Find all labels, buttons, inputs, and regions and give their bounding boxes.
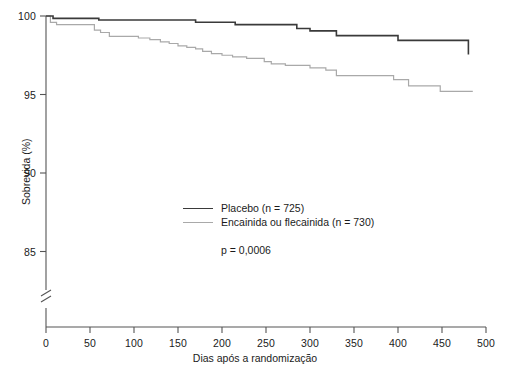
x-tick-label-200: 200	[213, 337, 231, 349]
x-tick-label-0: 0	[43, 337, 49, 349]
x-tick-label-150: 150	[169, 337, 187, 349]
y-tick-label-95: 95	[8, 89, 36, 101]
x-tick-label-450: 450	[433, 337, 451, 349]
x-axis-title: Dias após a randomização	[0, 352, 510, 364]
p-value-annotation: p = 0,0006	[221, 244, 271, 256]
y-axis-ticks	[40, 16, 46, 252]
y-tick-label-100: 100	[8, 10, 36, 22]
y-axis-title: Sobrevida (%)	[20, 138, 32, 205]
legend-item-placebo: Placebo (n = 725)	[183, 201, 374, 215]
legend: Placebo (n = 725) Encainida ou flecainid…	[183, 201, 374, 229]
x-tick-label-400: 400	[389, 337, 407, 349]
x-tick-label-500: 500	[477, 337, 495, 349]
x-tick-label-50: 50	[84, 337, 96, 349]
series-group	[46, 16, 473, 91]
x-tick-label-100: 100	[125, 337, 143, 349]
legend-label-placebo: Placebo (n = 725)	[221, 202, 304, 214]
y-tick-label-85: 85	[8, 246, 36, 258]
x-tick-label-250: 250	[257, 337, 275, 349]
legend-swatch-treatment	[183, 222, 213, 223]
chart-figure: 100 95 90 85 0 50 100 150 200 250 300 35…	[0, 0, 510, 372]
x-tick-label-350: 350	[345, 337, 363, 349]
legend-item-treatment: Encainida ou flecainida (n = 730)	[183, 215, 374, 229]
curve-encainida-flecainida	[46, 16, 473, 91]
axis-break-symbol	[41, 290, 51, 302]
x-tick-label-300: 300	[301, 337, 319, 349]
x-axis-ticks	[46, 327, 486, 333]
legend-swatch-placebo	[183, 208, 213, 209]
legend-label-treatment: Encainida ou flecainida (n = 730)	[221, 216, 374, 228]
axis-group	[40, 16, 486, 333]
survival-plot-svg	[0, 0, 510, 372]
